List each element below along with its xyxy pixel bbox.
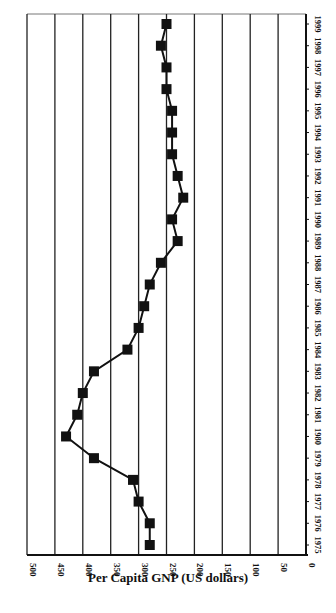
data-point-marker bbox=[128, 475, 138, 485]
category-tick-label: 1975 bbox=[313, 537, 323, 554]
category-tick-label: 1994 bbox=[313, 124, 323, 142]
data-point-marker bbox=[89, 366, 99, 376]
category-tick-label: 1978 bbox=[313, 471, 323, 488]
category-tick-label: 1980 bbox=[313, 428, 323, 445]
category-tick-label: 1977 bbox=[313, 493, 323, 511]
data-point-marker bbox=[122, 345, 132, 355]
data-point-marker bbox=[178, 193, 188, 203]
data-point-marker bbox=[173, 171, 183, 181]
category-tick-label: 1992 bbox=[313, 167, 323, 184]
category-tick-label: 1996 bbox=[313, 81, 323, 98]
data-point-marker bbox=[173, 236, 183, 246]
category-tick-label: 1979 bbox=[313, 450, 323, 467]
category-tick-label: 1990 bbox=[313, 211, 323, 228]
data-point-marker bbox=[167, 149, 177, 159]
category-tick-label: 1981 bbox=[313, 406, 323, 423]
data-point-marker bbox=[145, 280, 155, 290]
category-tick-label: 1982 bbox=[313, 385, 323, 402]
data-point-marker bbox=[162, 62, 172, 72]
category-tick-label: 1997 bbox=[313, 59, 323, 77]
chart-plot-area: 5004504003503002502001501005001975197619… bbox=[0, 0, 336, 613]
category-tick-label: 1984 bbox=[313, 341, 323, 359]
data-point-marker bbox=[156, 258, 166, 268]
data-point-marker bbox=[72, 410, 82, 420]
gnp-line-chart: 5004504003503002502001501005001975197619… bbox=[0, 0, 336, 613]
data-point-marker bbox=[167, 106, 177, 116]
data-point-marker bbox=[145, 540, 155, 550]
category-tick-label: 1991 bbox=[313, 189, 323, 206]
data-point-marker bbox=[139, 301, 149, 311]
category-tick-label: 1995 bbox=[313, 102, 323, 119]
category-tick-label: 1993 bbox=[313, 146, 323, 163]
category-tick-label: 1987 bbox=[313, 276, 323, 294]
category-tick-label: 1983 bbox=[313, 363, 323, 380]
category-tick-label: 1989 bbox=[313, 233, 323, 250]
data-point-marker bbox=[167, 214, 177, 224]
data-point-marker bbox=[134, 497, 144, 507]
data-point-marker bbox=[61, 431, 71, 441]
data-point-marker bbox=[89, 453, 99, 463]
value-tick-label: 0 bbox=[307, 563, 317, 568]
x-axis-title: Per Capita GNP (US dollars) bbox=[0, 570, 336, 586]
category-tick-label: 1976 bbox=[313, 515, 323, 532]
data-point-marker bbox=[167, 128, 177, 138]
data-point-marker bbox=[162, 84, 172, 94]
data-point-marker bbox=[145, 518, 155, 528]
category-tick-label: 1999 bbox=[313, 16, 323, 33]
data-line bbox=[66, 24, 183, 545]
data-point-marker bbox=[156, 41, 166, 51]
category-tick-label: 1988 bbox=[313, 254, 323, 271]
data-point-marker bbox=[134, 323, 144, 333]
data-point-marker bbox=[78, 388, 88, 398]
category-tick-label: 1986 bbox=[313, 298, 323, 315]
category-tick-label: 1998 bbox=[313, 37, 323, 54]
data-point-marker bbox=[162, 19, 172, 29]
category-tick-label: 1985 bbox=[313, 319, 323, 336]
